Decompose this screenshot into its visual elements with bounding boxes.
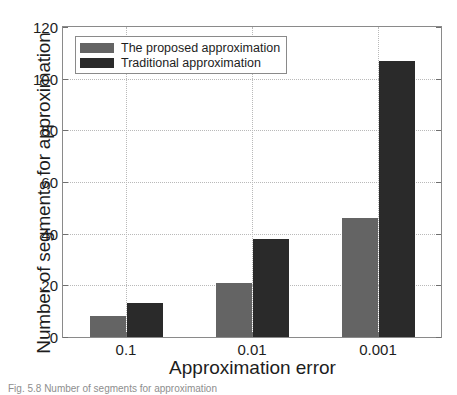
y-axis-tick-right — [436, 285, 441, 286]
plot-inner: 0204060801001200.10.010.001The proposed … — [63, 27, 441, 337]
y-axis-tick — [63, 285, 68, 286]
y-axis-tick-label: 0 — [50, 329, 58, 346]
y-axis-tick-right — [436, 79, 441, 80]
figure-caption: Fig. 5.8 Number of segments for approxim… — [8, 383, 217, 394]
y-axis-tick — [63, 337, 68, 338]
y-axis-tick — [63, 27, 68, 28]
bar-proposed — [342, 218, 378, 337]
x-axis-tick-label: 0.01 — [237, 341, 266, 358]
legend-label: Traditional approximation — [121, 56, 261, 70]
y-axis-tick-label: 100 — [33, 70, 58, 87]
y-axis-tick-right — [436, 337, 441, 338]
y-axis-tick-label: 20 — [41, 277, 58, 294]
bar-traditional — [127, 303, 163, 337]
y-axis-tick-label: 40 — [41, 225, 58, 242]
bar-proposed — [90, 316, 126, 337]
legend-swatch-icon — [80, 58, 114, 68]
plot-area: 0204060801001200.10.010.001The proposed … — [62, 26, 442, 338]
legend-item: Traditional approximation — [80, 55, 280, 70]
y-axis-tick — [63, 234, 68, 235]
x-axis-tick-label: 0.001 — [359, 341, 397, 358]
y-axis-tick-right — [436, 130, 441, 131]
y-axis-tick-right — [436, 182, 441, 183]
bar-proposed — [216, 283, 252, 337]
legend-item: The proposed approximation — [80, 40, 280, 55]
chart-legend: The proposed approximationTraditional ap… — [75, 36, 287, 74]
y-axis-tick-right — [436, 234, 441, 235]
x-axis-tick-label: 0.1 — [116, 341, 137, 358]
y-axis-tick-right — [436, 27, 441, 28]
y-axis-tick-label: 60 — [41, 174, 58, 191]
bar-traditional — [253, 239, 289, 337]
legend-swatch-icon — [80, 43, 114, 53]
bar-traditional — [379, 61, 415, 337]
y-axis-tick-label: 80 — [41, 122, 58, 139]
y-axis-tick — [63, 79, 68, 80]
legend-label: The proposed approximation — [121, 41, 280, 55]
figure-container: Number of segments for approximation 020… — [0, 0, 457, 395]
y-axis-tick — [63, 130, 68, 131]
x-axis-title: Approximation error — [62, 357, 443, 379]
y-axis-tick-label: 120 — [33, 19, 58, 36]
y-axis-tick — [63, 182, 68, 183]
